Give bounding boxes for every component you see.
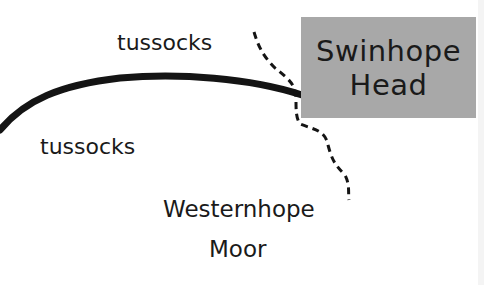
place-name-line2: Head bbox=[350, 68, 428, 102]
tussocks-south-label: tussocks bbox=[40, 134, 135, 159]
tussocks-north-label: tussocks bbox=[117, 30, 212, 55]
track-path bbox=[0, 76, 302, 130]
place-name-line1: Swinhope bbox=[316, 34, 461, 68]
swinhope-head-box: Swinhope Head bbox=[301, 17, 476, 118]
area-name-line2: Moor bbox=[209, 236, 266, 262]
area-name-line1: Westernhope bbox=[163, 196, 315, 222]
